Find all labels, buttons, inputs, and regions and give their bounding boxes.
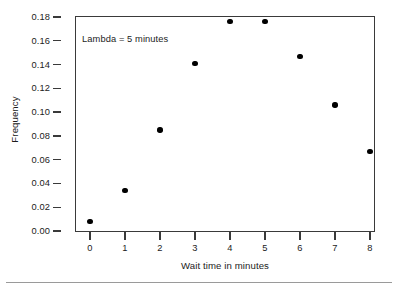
x-tick-mark [89,232,90,240]
x-tick-mark [334,232,335,240]
x-tick-label: 1 [115,243,135,253]
x-tick-label: 3 [185,243,205,253]
x-tick-mark [124,232,125,240]
plot-area-frame [75,16,375,232]
x-tick-mark [264,232,265,240]
x-tick-mark [369,232,370,240]
y-tick-label: 0.18 [32,10,51,24]
x-tick-label: 5 [255,243,275,253]
y-tick-label: 0.02 [32,200,51,214]
chart-annotation: Lambda = 5 minutes [82,34,168,44]
y-tick-label: 0.08 [32,129,51,143]
y-tick-label: 0.10 [32,105,51,119]
y-tick-label: 0.16 [32,34,51,48]
y-axis-title: Frequency [9,60,20,180]
y-tick-mark [53,16,61,17]
x-tick-label: 2 [150,243,170,253]
x-tick-label: 4 [220,243,240,253]
scatter-chart-figure: 0.000.020.040.060.080.100.120.140.160.18… [0,0,398,294]
y-tick-label: 0.04 [32,176,51,190]
x-tick-label: 7 [325,243,345,253]
x-tick-label: 6 [290,243,310,253]
x-tick-mark [159,232,160,240]
footer-divider [6,282,392,283]
y-tick-mark [53,64,61,65]
x-tick-mark [299,232,300,240]
y-tick-label: 0.12 [32,81,51,95]
x-tick-mark [194,232,195,240]
x-tick-mark [229,232,230,240]
x-axis-title: Wait time in minutes [75,260,375,271]
y-tick-mark [53,40,61,41]
y-tick-label: 0.14 [32,58,51,72]
y-tick-mark [53,135,61,136]
x-tick-label: 8 [360,243,380,253]
y-tick-label: 0.06 [32,153,51,167]
x-tick-label: 0 [80,243,100,253]
y-tick-mark [53,88,61,89]
y-tick-mark [53,183,61,184]
y-tick-mark [53,159,61,160]
y-tick-mark [53,111,61,112]
y-tick-mark [53,207,61,208]
